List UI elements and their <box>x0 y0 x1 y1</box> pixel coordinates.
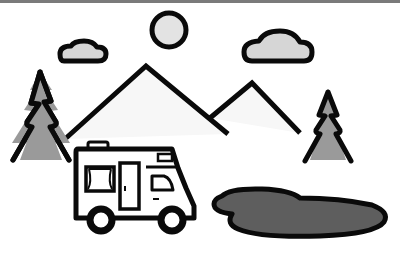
mountain-small-icon <box>210 83 300 133</box>
pond-icon <box>214 189 386 236</box>
tree-right-icon <box>305 92 351 161</box>
cloud-left-icon <box>60 41 106 61</box>
tree-left-icon <box>12 72 70 160</box>
sun-icon <box>152 13 186 47</box>
camping-scene-illustration <box>0 0 400 260</box>
camper-van-icon <box>76 142 194 231</box>
cloud-right-icon <box>244 31 312 61</box>
mountain-large-icon <box>65 66 228 139</box>
